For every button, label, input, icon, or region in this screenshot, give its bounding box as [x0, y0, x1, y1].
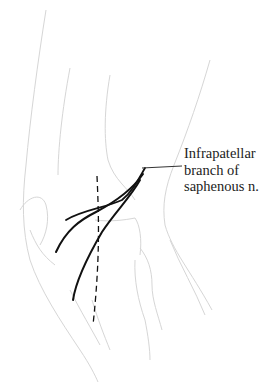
anatomy-outline	[20, 10, 212, 382]
leader-line	[142, 166, 182, 168]
label-line-1: Infrapatellar	[184, 145, 259, 162]
incision-line	[93, 176, 98, 325]
nerve-branches	[56, 168, 145, 300]
label-line-3: saphenous n.	[184, 178, 259, 195]
nerve-label: Infrapatellar branch of saphenous n.	[184, 145, 259, 195]
label-line-2: branch of	[184, 162, 259, 179]
